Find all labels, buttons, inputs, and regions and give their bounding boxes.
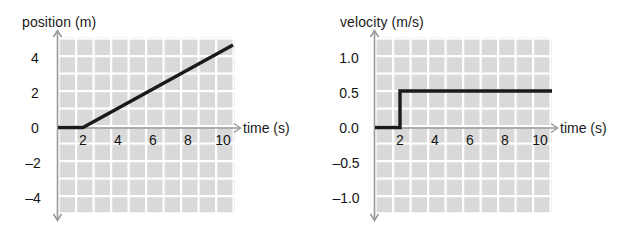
y-tick-0-5: 0.5 bbox=[330, 85, 368, 101]
x-tick-2: 2 bbox=[71, 132, 95, 148]
y-tick-minus-4: –4 bbox=[18, 190, 48, 206]
y-tick-2: 2 bbox=[22, 85, 48, 101]
y-tick-minus-0-5: –0.5 bbox=[324, 155, 368, 171]
x-tick-6: 6 bbox=[141, 132, 165, 148]
y-tick-0-0: 0.0 bbox=[330, 120, 368, 136]
figure-two-graphs: position (m) bbox=[0, 0, 632, 235]
velocity-time-graph: velocity (m/s) 1.0 bbox=[316, 0, 632, 235]
y-tick-0: 0 bbox=[22, 120, 48, 136]
x-tick-10: 10 bbox=[527, 132, 553, 148]
x-tick-2: 2 bbox=[388, 132, 412, 148]
y-tick-minus-1-0: –1.0 bbox=[324, 190, 368, 206]
x-tick-8: 8 bbox=[493, 132, 517, 148]
x-tick-6: 6 bbox=[458, 132, 482, 148]
y-tick-1-0: 1.0 bbox=[330, 50, 368, 66]
x-axis-title-time: time (s) bbox=[243, 120, 290, 136]
x-tick-4: 4 bbox=[423, 132, 447, 148]
x-axis-title-time: time (s) bbox=[560, 120, 607, 136]
y-tick-4: 4 bbox=[22, 50, 48, 66]
x-tick-4: 4 bbox=[106, 132, 130, 148]
position-time-graph: position (m) bbox=[0, 0, 316, 235]
y-tick-minus-2: –2 bbox=[18, 155, 48, 171]
x-tick-8: 8 bbox=[176, 132, 200, 148]
x-tick-10: 10 bbox=[210, 132, 236, 148]
